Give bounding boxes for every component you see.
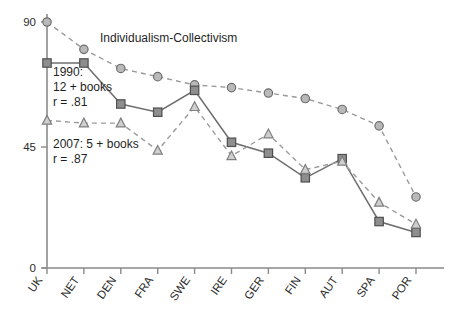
data-point-circle-fin — [301, 94, 309, 102]
data-point-triangle-por — [411, 219, 420, 228]
data-point-circle-spa — [375, 122, 383, 130]
x-tick-label-ger: GER — [242, 274, 266, 301]
data-point-square-den — [117, 100, 125, 108]
data-point-circle-ire — [227, 83, 235, 91]
annotation-1990-label: 1990: — [53, 65, 83, 79]
x-tick-label-ire: IRE — [208, 274, 229, 297]
series-triangle — [42, 102, 420, 228]
data-point-square-uk — [43, 59, 51, 67]
y-tick-label-0: 0 — [30, 262, 36, 274]
data-point-circle-net — [80, 45, 88, 53]
data-point-triangle-swe — [190, 102, 199, 111]
data-point-square-ger — [264, 149, 272, 157]
y-tick-label-90: 90 — [23, 16, 36, 28]
data-point-square-por — [412, 228, 420, 236]
data-point-circle-aut — [338, 105, 346, 113]
x-tick-label-uk: UK — [26, 274, 45, 294]
x-axis-tick-labels: UKNETDENFRASWEIREGERFINAUTSPAPOR — [26, 274, 414, 303]
x-tick-label-swe: SWE — [167, 274, 192, 303]
data-point-triangle-uk — [42, 115, 51, 124]
data-point-square-swe — [190, 86, 198, 94]
data-point-circle-fra — [154, 72, 162, 80]
x-axis-ticks — [47, 268, 416, 274]
data-point-triangle-ger — [264, 129, 273, 138]
data-point-circle-uk — [43, 18, 51, 26]
series-line-triangle — [47, 107, 416, 225]
data-point-circle-den — [117, 64, 125, 72]
data-point-triangle-den — [116, 118, 125, 127]
series-line-circle — [47, 22, 416, 197]
x-tick-label-net: NET — [59, 274, 82, 300]
data-point-circle-por — [412, 193, 420, 201]
series-group — [42, 18, 420, 237]
annotation-2007-correlation: r = .87 — [53, 152, 88, 166]
data-point-square-fra — [154, 108, 162, 116]
annotation-1990-correlation: r = .81 — [53, 95, 88, 109]
data-point-triangle-fra — [153, 145, 162, 154]
annotation-1990-books: 12 + books — [53, 80, 112, 94]
data-point-square-fin — [301, 174, 309, 182]
chart-container: 90 45 0 UKNETDENFRASWEIREGERFINAUTSPAPOR… — [0, 0, 464, 316]
x-tick-label-fra: FRA — [132, 274, 155, 300]
y-tick-label-45: 45 — [23, 141, 36, 153]
data-point-circle-ger — [264, 89, 272, 97]
x-tick-label-fin: FIN — [282, 274, 302, 296]
data-point-triangle-spa — [375, 197, 384, 206]
data-point-square-ire — [227, 138, 235, 146]
x-tick-label-den: DEN — [95, 274, 119, 301]
chart-title: Individualism-Collectivism — [100, 31, 237, 45]
data-point-triangle-ire — [227, 151, 236, 160]
individualism-collectivism-line-chart: 90 45 0 UKNETDENFRASWEIREGERFINAUTSPAPOR… — [0, 0, 464, 316]
data-point-square-spa — [375, 217, 383, 225]
x-tick-label-por: POR — [390, 274, 414, 301]
series-circle — [43, 18, 420, 201]
x-tick-label-aut: AUT — [317, 274, 340, 300]
annotation-2007-label: 2007: 5 + books — [53, 137, 139, 151]
x-tick-label-spa: SPA — [354, 274, 377, 299]
